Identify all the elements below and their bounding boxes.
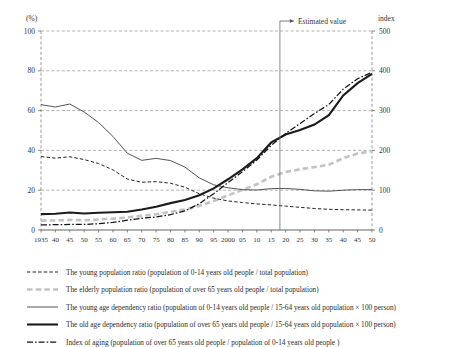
- y-axis-left-unit-label: (%): [26, 14, 38, 23]
- y-axis-right-tick-label: 500: [379, 27, 391, 36]
- series-line-elderly-population-ratio: [41, 151, 372, 220]
- legend-item-label: Index of aging (population of over 65 ye…: [66, 338, 340, 347]
- x-axis-tick-label: 35: [325, 236, 333, 244]
- x-axis-tick-label: 05: [239, 236, 247, 244]
- legend-item[interactable]: The old age dependency ratio (population…: [27, 320, 396, 329]
- y-axis-right-ticks: 0100200300400500: [372, 27, 391, 235]
- x-axis-tick-label: 50: [81, 236, 89, 244]
- x-axis-tick-label: 45: [66, 236, 74, 244]
- legend-item[interactable]: The young age dependency ratio (populati…: [27, 303, 397, 312]
- y-axis-right-tick-label: 100: [379, 186, 391, 195]
- series-line-young-age-dependency-ratio: [41, 104, 372, 191]
- y-axis-right-tick-label: 200: [379, 146, 391, 155]
- estimated-value-label: Estimated value: [298, 17, 347, 26]
- y-axis-right-tick-label: 300: [379, 106, 391, 115]
- x-axis-tick-label: 25: [297, 236, 305, 244]
- x-axis-tick-label: 55: [95, 236, 103, 244]
- x-axis-tick-label: 75: [153, 236, 161, 244]
- y-axis-left-tick-label: 100: [24, 27, 36, 36]
- x-axis-tick-label: 15: [268, 236, 276, 244]
- estimated-value-arrow-head: [290, 19, 294, 23]
- y-axis-left-tick-label: 0: [31, 226, 35, 235]
- x-axis-tick-label: 95: [210, 236, 218, 244]
- legend-item-label: The elderly population ratio (population…: [66, 285, 319, 294]
- legend-item[interactable]: Index of aging (population of over 65 ye…: [27, 338, 340, 347]
- x-axis-tick-label: 80: [167, 236, 175, 244]
- y-axis-left-tick-label: 20: [28, 186, 36, 195]
- series-line-old-age-dependency-ratio: [41, 74, 372, 214]
- y-axis-left-ticks: 020406080100: [24, 27, 41, 235]
- series-line-index-of-aging: [41, 72, 372, 225]
- y-axis-right-tick-label: 0: [379, 226, 383, 235]
- x-axis-tick-label: 45: [354, 236, 362, 244]
- x-axis-tick-label: 90: [196, 236, 204, 244]
- legend-item[interactable]: The elderly population ratio (population…: [27, 285, 319, 294]
- y-axis-right-unit-label: index: [378, 14, 395, 23]
- legend-item-label: The old age dependency ratio (population…: [66, 320, 396, 329]
- x-axis-tick-label: 40: [52, 236, 60, 244]
- grid-lines: [41, 31, 372, 230]
- x-axis-tick-label: 60: [109, 236, 117, 244]
- population-aging-line-chart: 020406080100 0100200300400500 1935404550…: [0, 0, 457, 347]
- x-axis-tick-label: 65: [124, 236, 132, 244]
- x-axis-tick-label: 10: [253, 236, 261, 244]
- legend-item[interactable]: The young population ratio (population o…: [27, 268, 309, 277]
- x-axis-tick-label: 40: [340, 236, 348, 244]
- estimated-value-annotation: Estimated value: [280, 17, 347, 230]
- y-axis-right-tick-label: 400: [379, 66, 391, 75]
- legend-item-label: The young age dependency ratio (populati…: [66, 303, 397, 312]
- x-axis-tick-label: 30: [311, 236, 319, 244]
- chart-canvas: 020406080100 0100200300400500 1935404550…: [0, 0, 457, 347]
- x-axis-ticks: 1935404550556065707580859095200005101520…: [34, 230, 376, 244]
- x-axis-tick-label: 1935: [34, 236, 49, 244]
- y-axis-left-tick-label: 80: [28, 66, 36, 75]
- x-axis-tick-label: 50: [369, 236, 377, 244]
- legend-item-label: The young population ratio (population o…: [66, 268, 309, 277]
- data-series: [41, 72, 372, 225]
- x-axis-tick-label: 20: [282, 236, 290, 244]
- chart-legend: The young population ratio (population o…: [27, 268, 397, 347]
- x-axis-tick-label: 85: [181, 236, 189, 244]
- x-axis-tick-label: 70: [138, 236, 146, 244]
- y-axis-left-tick-label: 40: [28, 146, 36, 155]
- x-axis-tick-label: 2000: [221, 236, 236, 244]
- y-axis-left-tick-label: 60: [28, 106, 36, 115]
